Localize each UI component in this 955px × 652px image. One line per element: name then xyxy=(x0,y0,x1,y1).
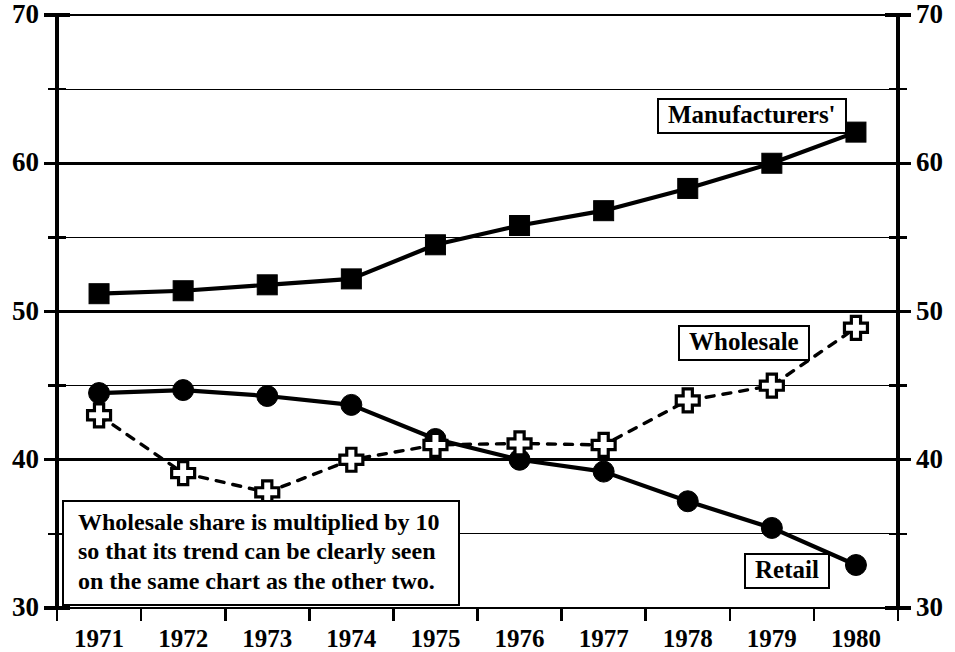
chart-container: 7060504030 7060504030 197119721973197419… xyxy=(0,0,955,652)
y-tick-label-left-70: 70 xyxy=(12,1,39,28)
annotation-line-2: so that its trend can be clearly seen xyxy=(78,537,446,566)
y-tick-label-right-30: 30 xyxy=(916,594,943,621)
y-tick-label-left-40: 40 xyxy=(12,446,39,473)
annotation-line-3: on the same chart as the other two. xyxy=(78,567,446,596)
annotation-line-1: Wholesale share is multiplied by 10 xyxy=(78,508,446,537)
y-tick-label-left-60: 60 xyxy=(12,149,39,176)
annotation-note: Wholesale share is multiplied by 10so th… xyxy=(62,500,460,606)
series-label-retail: Retail xyxy=(744,553,830,589)
y-tick-label-right-70: 70 xyxy=(916,1,943,28)
y-tick-label-left-50: 50 xyxy=(12,298,39,325)
y-tick-label-right-60: 60 xyxy=(916,149,943,176)
series-label-wholesale: Wholesale xyxy=(678,325,810,361)
y-tick-label-right-50: 50 xyxy=(916,298,943,325)
series-label-manufacturers: Manufacturers' xyxy=(657,98,847,134)
series-manufacturers xyxy=(89,122,866,304)
y-tick-label-right-40: 40 xyxy=(916,446,943,473)
x-tick-label-1980: 1980 xyxy=(806,625,906,652)
y-tick-label-left-30: 30 xyxy=(12,594,39,621)
